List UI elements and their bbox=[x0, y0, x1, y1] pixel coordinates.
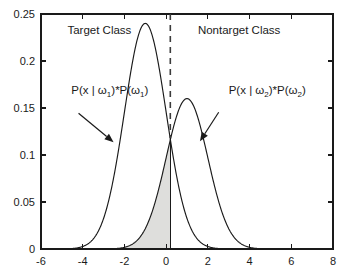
y-tick-label: 0.05 bbox=[14, 196, 35, 208]
figure-container: -6-4-202468 00.050.10.150.20.25 Target C… bbox=[0, 0, 347, 280]
x-tick-label: 4 bbox=[247, 255, 253, 267]
x-tick-label: -6 bbox=[36, 255, 46, 267]
y-tick-label: 0.15 bbox=[14, 102, 35, 114]
target-pdf-suffix: ) bbox=[145, 84, 149, 96]
x-tick-label: 6 bbox=[288, 255, 294, 267]
y-tick-label: 0.1 bbox=[20, 149, 35, 161]
y-tick-label: 0.25 bbox=[14, 8, 35, 20]
y-tick-label: 0.2 bbox=[20, 55, 35, 67]
target-pdf-middle: )*P(ω bbox=[111, 84, 140, 96]
x-tick-label: 8 bbox=[330, 255, 336, 267]
x-tick-label: -2 bbox=[120, 255, 130, 267]
x-tick-label: 0 bbox=[163, 255, 169, 267]
nontarget-pdf-suffix: ) bbox=[302, 84, 306, 96]
probability-density-chart: -6-4-202468 00.050.10.150.20.25 Target C… bbox=[0, 0, 347, 280]
y-tick-label: 0 bbox=[29, 243, 35, 255]
x-tick-label: 2 bbox=[205, 255, 211, 267]
x-tick-label: -4 bbox=[78, 255, 88, 267]
target-class-title: Target Class bbox=[67, 24, 131, 36]
nontarget-pdf-prefix: P(x | ω bbox=[229, 84, 265, 96]
chart-background bbox=[0, 0, 347, 280]
target-pdf-prefix: P(x | ω bbox=[71, 84, 107, 96]
nontarget-pdf-middle: )*P(ω bbox=[269, 84, 298, 96]
nontarget-class-title: Nontarget Class bbox=[198, 24, 281, 36]
